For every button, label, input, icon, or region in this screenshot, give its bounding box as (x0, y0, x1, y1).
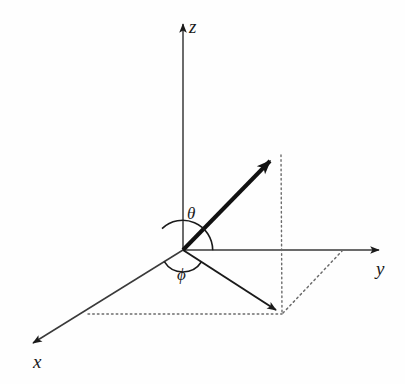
vertical-drop-line-guide (281, 155, 282, 313)
diagonal-to-y-axis-line-guide (283, 251, 342, 313)
y-axis-label: y (376, 259, 384, 278)
diagram-canvas (0, 0, 405, 384)
x-axis-label: x (33, 352, 41, 371)
theta-angle-label: θ (187, 205, 195, 222)
spherical-coordinates-figure: z y x θ ϕ (0, 0, 405, 384)
z-axis-label: z (189, 17, 196, 36)
x-axis-line (33, 250, 183, 343)
projection-vector-line (183, 250, 276, 310)
phi-angle-label: ϕ (177, 266, 186, 283)
radial-vector-line (183, 161, 270, 250)
